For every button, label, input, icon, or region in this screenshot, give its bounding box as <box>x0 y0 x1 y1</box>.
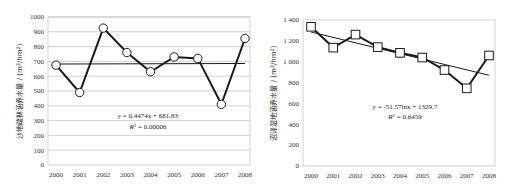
y-tick-label: 400 <box>34 102 45 110</box>
y-tick-label: 300 <box>34 117 45 125</box>
x-tick-label: 2008 <box>482 172 497 180</box>
y-tick-label: 900 <box>34 28 45 36</box>
x-tick-label: 2002 <box>349 172 364 180</box>
x-tick-label: 2005 <box>415 172 430 180</box>
x-tick-label: 2008 <box>238 171 253 179</box>
y-tick-label: 200 <box>34 132 45 140</box>
y-tick-label: 700 <box>34 58 45 66</box>
left-y-axis-ticks: 01002003004005006007008009001000 <box>30 13 45 169</box>
y-tick-label: 200 <box>289 141 300 149</box>
circle-marker-icon <box>52 61 60 69</box>
y-tick-label: 400 <box>289 121 300 129</box>
right-trend-equation: y = -51.57lnx + 1329.7 <box>372 103 438 111</box>
right-r-squared: R2 = 0.6459 <box>387 113 422 122</box>
circle-marker-icon <box>194 54 202 62</box>
circle-marker-icon <box>75 88 83 96</box>
circle-marker-icon <box>217 100 225 108</box>
y-tick-label: 1 400 <box>283 16 299 24</box>
right-x-axis-ticks: 200020012002200320042005200620072008 <box>304 172 497 180</box>
left-ylabel: 沙地疏林涵养水量 / (m3/hm2) <box>15 43 25 138</box>
square-marker-icon <box>373 43 382 52</box>
x-tick-label: 2007 <box>214 171 229 179</box>
x-tick-label: 2004 <box>144 171 159 179</box>
circle-marker-icon <box>146 68 154 76</box>
y-tick-label: 100 <box>34 147 45 155</box>
right-line-chart: 02004006008001 0001 2001 400 20002001200… <box>269 16 497 180</box>
y-tick-label: 0 <box>296 162 300 170</box>
left-trend-equation: y = 0.4474x + 681.83 <box>117 112 179 120</box>
square-marker-icon <box>396 49 405 58</box>
left-line-chart: 01002003004005006007008009001000 2000200… <box>15 13 253 179</box>
y-tick-label: 800 <box>289 79 300 87</box>
circle-marker-icon <box>170 53 178 61</box>
square-marker-icon <box>440 66 449 75</box>
y-tick-label: 1000 <box>30 13 45 21</box>
x-tick-label: 2004 <box>393 172 408 180</box>
circle-marker-icon <box>99 24 107 32</box>
square-marker-icon <box>307 22 316 31</box>
x-tick-label: 2005 <box>167 171 182 179</box>
y-tick-label: 0 <box>41 161 45 169</box>
x-tick-label: 2001 <box>326 172 341 180</box>
y-tick-label: 1 000 <box>283 58 299 66</box>
square-marker-icon <box>462 84 471 93</box>
x-tick-label: 2003 <box>371 172 386 180</box>
square-marker-icon <box>418 53 427 62</box>
x-tick-label: 2002 <box>96 171 111 179</box>
y-tick-label: 600 <box>289 100 300 108</box>
y-tick-label: 800 <box>34 43 45 51</box>
x-tick-label: 2000 <box>304 172 319 180</box>
y-tick-label: 600 <box>34 73 45 81</box>
square-marker-icon <box>485 51 494 60</box>
y-tick-label: 1 200 <box>283 37 299 45</box>
left-trendline <box>56 63 245 64</box>
x-tick-label: 2000 <box>49 171 64 179</box>
x-tick-label: 2001 <box>73 171 88 179</box>
chart-canvas: 01002003004005006007008009001000 2000200… <box>0 0 515 192</box>
square-marker-icon <box>329 43 338 52</box>
square-marker-icon <box>351 30 360 39</box>
left-x-axis-ticks: 200020012002200320042005200620072008 <box>49 171 253 179</box>
right-y-axis-ticks: 02004006008001 0001 2001 400 <box>283 16 299 170</box>
x-tick-label: 2003 <box>120 171 135 179</box>
circle-marker-icon <box>241 34 249 42</box>
y-tick-label: 500 <box>34 87 45 95</box>
circle-marker-icon <box>123 48 131 56</box>
x-tick-label: 2006 <box>191 171 206 179</box>
x-tick-label: 2007 <box>460 172 475 180</box>
right-ylabel: 沼泽湿地涵养水量 / (m3/hm2) <box>269 45 279 140</box>
x-tick-label: 2006 <box>438 172 453 180</box>
